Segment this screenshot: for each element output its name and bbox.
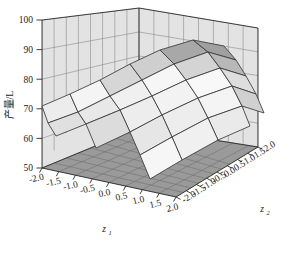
z-tick-label: 50 — [24, 163, 34, 173]
x-tick-label: 1.0 — [131, 194, 145, 206]
x-tick-label: 0.5 — [114, 190, 128, 202]
x-tick-label: 2.0 — [165, 201, 179, 213]
x-tick-label: -1.5 — [45, 175, 62, 188]
x-tick-label: 0.0 — [97, 187, 111, 199]
z-tick-label: 60 — [24, 134, 34, 144]
z-tick-label: 100 — [19, 15, 34, 25]
y-axis-title-subscript: 2 — [266, 209, 270, 216]
x-tick-label: -0.5 — [79, 182, 96, 195]
y-axis-title-letter: z — [259, 204, 264, 214]
z-axis-ticks: 100 90 80 70 60 50 — [19, 15, 42, 173]
z-tick-label: 90 — [24, 45, 34, 55]
x-axis-title-subscript: 1 — [108, 229, 111, 236]
z-axis-title: 产量/L — [3, 91, 15, 120]
plot-canvas: 100 90 80 70 60 50 产量/L -2.0 -1.5 -1 — [0, 0, 295, 263]
x-tick-label: -1.0 — [62, 179, 79, 192]
surface-plot-figure: 100 90 80 70 60 50 产量/L -2.0 -1.5 -1 — [0, 0, 295, 263]
z-tick-label: 80 — [24, 75, 34, 85]
x-tick-label: -2.0 — [28, 171, 45, 184]
z-tick-label: 70 — [24, 104, 34, 114]
y-axis-title: z 2 — [259, 204, 270, 216]
x-axis-title-letter: z — [101, 224, 106, 234]
x-axis-title: z 1 — [101, 224, 111, 236]
x-tick-label: 1.5 — [148, 198, 162, 210]
